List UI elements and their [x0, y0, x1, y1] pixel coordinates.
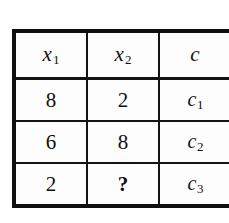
value-x1-row2: 6: [46, 132, 57, 153]
cell-x2-row1: 2: [87, 79, 159, 122]
value-x1-row1: 8: [46, 90, 57, 111]
cell-x1-row1: 8: [14, 79, 87, 122]
cell-x2-row2: 8: [87, 121, 159, 163]
table-row: 8 2 c1: [14, 79, 229, 122]
cell-x1-row3: 2: [14, 163, 87, 206]
cell-x2-row3-missing: ?: [87, 163, 159, 206]
value-x2-row1: 2: [118, 90, 129, 111]
table-row: 2 ? c3: [14, 163, 229, 206]
value-c-row1: c1: [188, 89, 204, 112]
column-header-c: c: [159, 31, 229, 79]
header-symbol-c: c: [190, 44, 200, 67]
cell-x1-row2: 6: [14, 121, 87, 163]
scan-canvas: x1 x2 c 8 2 c1: [0, 0, 229, 223]
table-row: 6 8 c2: [14, 121, 229, 163]
value-c-row3: c3: [188, 173, 204, 196]
table-body: x1 x2 c 8 2 c1: [14, 31, 229, 206]
header-symbol-x1: x1: [43, 44, 60, 67]
value-x1-row3: 2: [46, 174, 57, 195]
value-x2-row2: 8: [118, 132, 129, 153]
data-table: x1 x2 c 8 2 c1: [12, 29, 229, 208]
cell-c-row2: c2: [159, 121, 229, 163]
value-c-row2: c2: [188, 131, 204, 154]
table-header-row: x1 x2 c: [14, 31, 229, 79]
missing-value-marker: ?: [118, 174, 129, 195]
column-header-x2: x2: [87, 31, 159, 79]
cell-c-row3: c3: [159, 163, 229, 206]
column-header-x1: x1: [14, 31, 87, 79]
header-symbol-x2: x2: [115, 44, 132, 67]
cell-c-row1: c1: [159, 79, 229, 122]
